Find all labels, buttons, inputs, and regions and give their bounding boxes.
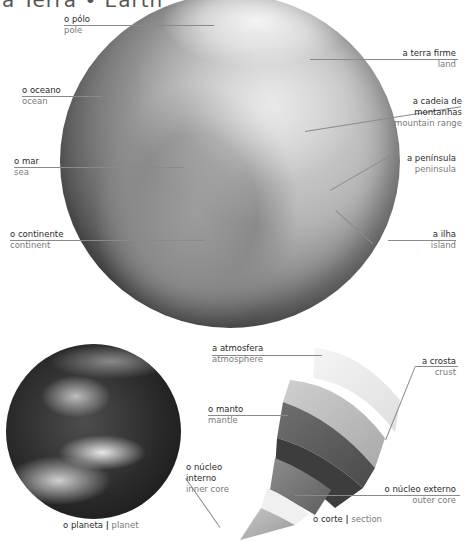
caption-separator: | xyxy=(346,514,349,524)
label-pt: o continente xyxy=(10,229,63,240)
label-peninsula: a península peninsula xyxy=(407,153,456,175)
label-en: land xyxy=(403,59,456,70)
label-en: peninsula xyxy=(407,164,456,175)
caption-pt: o planeta xyxy=(63,520,103,530)
label-pole: o pólo pole xyxy=(64,14,90,36)
label-sea: o mar sea xyxy=(14,156,39,178)
label-pt-line2: montanhas xyxy=(394,107,462,118)
label-outer-core: o núcleo externo outer core xyxy=(385,484,456,506)
label-crust: a crosta crust xyxy=(422,356,456,378)
label-mountain-range: a cadeia de montanhas mountain range xyxy=(394,96,462,129)
planet-image xyxy=(6,344,181,519)
label-land: a terra firme land xyxy=(403,48,456,70)
label-pt: o oceano xyxy=(22,85,61,96)
caption-en: section xyxy=(351,514,382,524)
label-pt: o manto xyxy=(208,404,243,415)
earth-section-image xyxy=(235,340,405,540)
planet-caption: o planeta | planet xyxy=(63,520,138,530)
label-pt: o pólo xyxy=(64,14,90,25)
label-mantle: o manto mantle xyxy=(208,404,243,426)
label-en: atmosphere xyxy=(212,354,263,365)
label-en: island xyxy=(431,240,456,251)
label-en: outer core xyxy=(385,495,456,506)
label-en: inner core xyxy=(186,484,229,495)
label-en: pole xyxy=(64,25,90,36)
label-pt-line1: o núcleo xyxy=(186,462,229,473)
label-pt: a ilha xyxy=(431,229,456,240)
label-en: ocean xyxy=(22,96,61,107)
label-pt: a península xyxy=(407,153,456,164)
caption-en: planet xyxy=(112,520,139,530)
label-pt-line1: a cadeia de xyxy=(394,96,462,107)
earth-globe-image xyxy=(60,0,400,328)
label-en: mountain range xyxy=(394,118,462,129)
caption-separator: | xyxy=(106,520,109,530)
label-pt: a atmosfera xyxy=(212,343,263,354)
label-pt: a crosta xyxy=(422,356,456,367)
label-en: crust xyxy=(422,367,456,378)
label-continent: o continente continent xyxy=(10,229,63,251)
label-en: continent xyxy=(10,240,63,251)
label-pt: o núcleo externo xyxy=(385,484,456,495)
label-pt: o mar xyxy=(14,156,39,167)
page-title: a Terra • Earth xyxy=(2,0,163,12)
label-en: mantle xyxy=(208,415,243,426)
leader-line-sea xyxy=(14,167,184,168)
section-caption: o corte | section xyxy=(313,514,382,524)
label-pt-line2: interno xyxy=(186,473,229,484)
label-pt: a terra firme xyxy=(403,48,456,59)
label-island: a ilha island xyxy=(431,229,456,251)
label-ocean: o oceano ocean xyxy=(22,85,61,107)
label-inner-core: o núcleo interno inner core xyxy=(186,462,229,495)
label-atmosphere: a atmosfera atmosphere xyxy=(212,343,263,365)
label-en: sea xyxy=(14,167,39,178)
caption-pt: o corte xyxy=(313,514,343,524)
